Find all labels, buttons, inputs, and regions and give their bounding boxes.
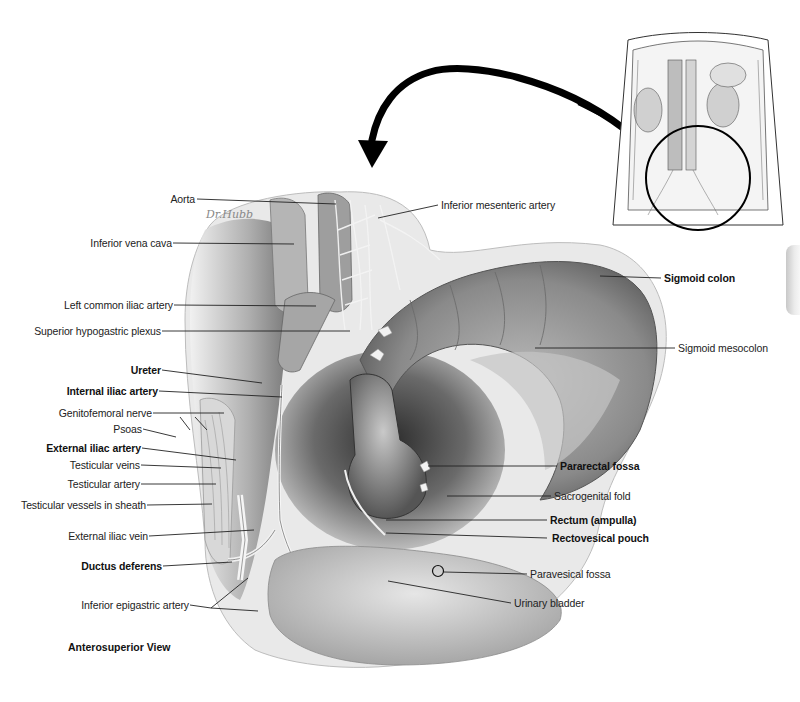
label-sacrogenital-fold: Sacrogenital fold <box>554 490 631 502</box>
label-inferior-vena-cava: Inferior vena cava <box>40 237 172 249</box>
label-genitofemoral-nerve: Genitofemoral nerve <box>20 407 152 419</box>
label-testicular-veins: Testicular veins <box>20 459 140 471</box>
label-ureter: Ureter <box>60 364 161 376</box>
label-paravesical-fossa: Paravesical fossa <box>530 568 611 580</box>
label-sigmoid-colon: Sigmoid colon <box>664 272 735 284</box>
label-rectum-ampulla: Rectum (ampulla) <box>550 514 637 526</box>
view-title: Anterosuperior View <box>68 641 171 653</box>
label-testicular-artery: Testicular artery <box>20 478 140 490</box>
label-internal-iliac-artery: Internal iliac artery <box>20 385 158 397</box>
label-external-iliac-vein: External iliac vein <box>20 530 148 542</box>
label-rectovesical-pouch: Rectovesical pouch <box>552 532 649 544</box>
curved-arrow-icon <box>358 69 623 168</box>
label-testicular-vessels-in-sheath: Testicular vessels in sheath <box>0 499 146 511</box>
label-inferior-epigastric-artery: Inferior epigastric artery <box>40 599 189 611</box>
page-edge-tab <box>786 245 800 315</box>
artist-signature: Dr.Hubb <box>205 208 253 221</box>
label-urinary-bladder: Urinary bladder <box>514 597 584 609</box>
label-ductus-deferens: Ductus deferens <box>40 560 162 572</box>
label-superior-hypogastric-plexus: Superior hypogastric plexus <box>0 325 161 337</box>
label-external-iliac-artery: External iliac artery <box>10 442 141 454</box>
label-aorta: Aorta <box>120 193 195 205</box>
orientation-inset <box>613 33 783 231</box>
label-inferior-mesenteric-artery: Inferior mesenteric artery <box>441 199 555 211</box>
label-left-common-iliac-artery: Left common iliac artery <box>20 299 173 311</box>
label-sigmoid-mesocolon: Sigmoid mesocolon <box>678 342 768 354</box>
label-pararectal-fossa: Pararectal fossa <box>560 460 640 472</box>
label-psoas: Psoas <box>60 423 142 435</box>
